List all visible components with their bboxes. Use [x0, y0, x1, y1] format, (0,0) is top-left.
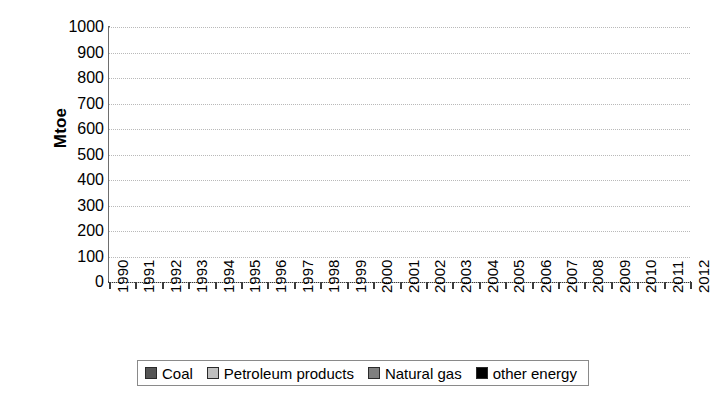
- chart-legend: Coal Petroleum products Natural gas othe…: [137, 360, 589, 386]
- legend-label-coal: Coal: [162, 366, 193, 381]
- gridline: [109, 53, 690, 54]
- x-tick-label: 1995: [247, 260, 262, 293]
- y-tick-label: 700: [48, 96, 104, 112]
- x-tick-label: 1991: [141, 260, 156, 293]
- y-tick-label: 1000: [48, 19, 104, 35]
- x-tick-mark: [611, 282, 613, 289]
- y-tick-label: 600: [48, 121, 104, 137]
- legend-label-natural-gas: Natural gas: [385, 366, 462, 381]
- legend-swatch-petroleum-products: [207, 367, 219, 379]
- x-tick-label: 1990: [115, 260, 130, 293]
- y-tick-label: 100: [48, 249, 104, 265]
- x-tick-mark: [426, 282, 428, 289]
- x-tick-mark: [347, 282, 349, 289]
- x-tick-label: 2005: [511, 260, 526, 293]
- x-tick-mark: [241, 282, 243, 289]
- x-tick-label: 2001: [406, 260, 421, 293]
- x-tick-label: 1997: [300, 260, 315, 293]
- gridline: [109, 231, 690, 232]
- gridline: [109, 180, 690, 181]
- x-tick-label: 2000: [379, 260, 394, 293]
- y-axis-ticks: 01002003004005006007008009001000: [40, 0, 104, 403]
- y-tick-label: 500: [48, 147, 104, 163]
- plot-area: [109, 27, 690, 282]
- gridline: [109, 129, 690, 130]
- x-tick-mark: [109, 282, 111, 289]
- stacked-area-chart: Mtoe 01002003004005006007008009001000 19…: [0, 0, 725, 403]
- legend-item-coal: Coal: [145, 366, 193, 381]
- x-tick-mark: [558, 282, 560, 289]
- x-tick-label: 1993: [194, 260, 209, 293]
- x-tick-mark: [479, 282, 481, 289]
- x-tick-mark: [400, 282, 402, 289]
- x-tick-mark: [294, 282, 296, 289]
- gridline: [109, 104, 690, 105]
- x-tick-mark: [664, 282, 666, 289]
- x-tick-label: 2011: [670, 261, 685, 293]
- gridline: [109, 257, 690, 258]
- x-tick-label: 1992: [168, 260, 183, 293]
- y-tick-label: 0: [48, 274, 104, 290]
- legend-swatch-natural-gas: [368, 367, 380, 379]
- x-tick-label: 1999: [353, 260, 368, 293]
- x-tick-label: 2002: [432, 260, 447, 293]
- x-tick-mark: [135, 282, 137, 289]
- x-tick-mark: [505, 282, 507, 289]
- x-tick-label: 2010: [643, 260, 658, 293]
- x-tick-mark: [373, 282, 375, 289]
- x-tick-mark: [452, 282, 454, 289]
- x-tick-mark: [584, 282, 586, 289]
- y-tick-label: 300: [48, 198, 104, 214]
- x-tick-label: 1996: [273, 260, 288, 293]
- gridline: [109, 155, 690, 156]
- legend-item-other-energy: other energy: [476, 366, 577, 381]
- legend-item-natural-gas: Natural gas: [368, 366, 462, 381]
- x-tick-mark: [532, 282, 534, 289]
- x-tick-mark: [188, 282, 190, 289]
- legend-label-other-energy: other energy: [493, 366, 577, 381]
- x-tick-label: 2003: [458, 260, 473, 293]
- x-tick-mark: [162, 282, 164, 289]
- legend-item-petroleum-products: Petroleum products: [207, 366, 354, 381]
- y-tick-label: 800: [48, 70, 104, 86]
- legend-swatch-other-energy: [476, 367, 488, 379]
- x-tick-label: 1998: [326, 260, 341, 293]
- x-tick-mark: [215, 282, 217, 289]
- x-tick-label: 2004: [485, 260, 500, 293]
- x-tick-label: 2012: [696, 260, 711, 293]
- x-tick-label: 2006: [538, 260, 553, 293]
- x-tick-mark: [690, 282, 692, 289]
- legend-label-petroleum-products: Petroleum products: [224, 366, 354, 381]
- legend-swatch-coal: [145, 367, 157, 379]
- x-tick-mark: [267, 282, 269, 289]
- x-tick-label: 1994: [221, 260, 236, 293]
- x-tick-label: 2007: [564, 260, 579, 293]
- x-tick-mark: [637, 282, 639, 289]
- x-tick-mark: [320, 282, 322, 289]
- y-tick-label: 900: [48, 45, 104, 61]
- gridline: [109, 206, 690, 207]
- gridline: [109, 27, 690, 28]
- gridline: [109, 78, 690, 79]
- x-tick-label: 2008: [590, 260, 605, 293]
- y-tick-label: 400: [48, 172, 104, 188]
- x-tick-label: 2009: [617, 260, 632, 293]
- y-tick-label: 200: [48, 223, 104, 239]
